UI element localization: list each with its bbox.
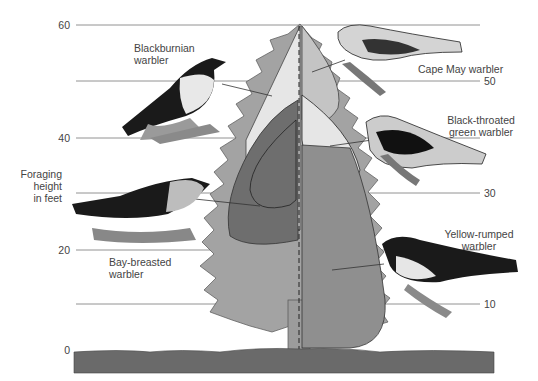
label-black-throated-green-warbler: Black-throated green warbler: [426, 114, 536, 138]
tick-40: 40: [30, 132, 70, 144]
tick-10: 10: [484, 298, 496, 310]
label-bay-breasted-warbler: Bay-breasted warbler: [109, 256, 171, 280]
tick-60: 60: [30, 19, 70, 31]
warbler-foraging-diagram: 60 40 20 0 50 30 10 Foraging height in f…: [0, 0, 538, 381]
cape-may-warbler-illustration: [338, 25, 462, 96]
tick-20: 20: [30, 244, 70, 256]
axis-title: Foraging height in feet: [0, 168, 62, 204]
ground: [74, 348, 494, 373]
zone-yellow-rumped: [302, 145, 385, 348]
bay-breasted-warbler-illustration: [72, 178, 210, 243]
label-yellow-rumped-warbler: Yellow-rumped warbler: [424, 228, 534, 252]
label-blackburnian-warbler: Blackburnian warbler: [134, 42, 195, 66]
tick-30: 30: [484, 187, 496, 199]
blackburnian-warbler-illustration: [122, 58, 226, 144]
tick-50: 50: [484, 75, 496, 87]
tick-0: 0: [30, 344, 70, 356]
label-cape-may-warbler: Cape May warbler: [418, 63, 503, 75]
